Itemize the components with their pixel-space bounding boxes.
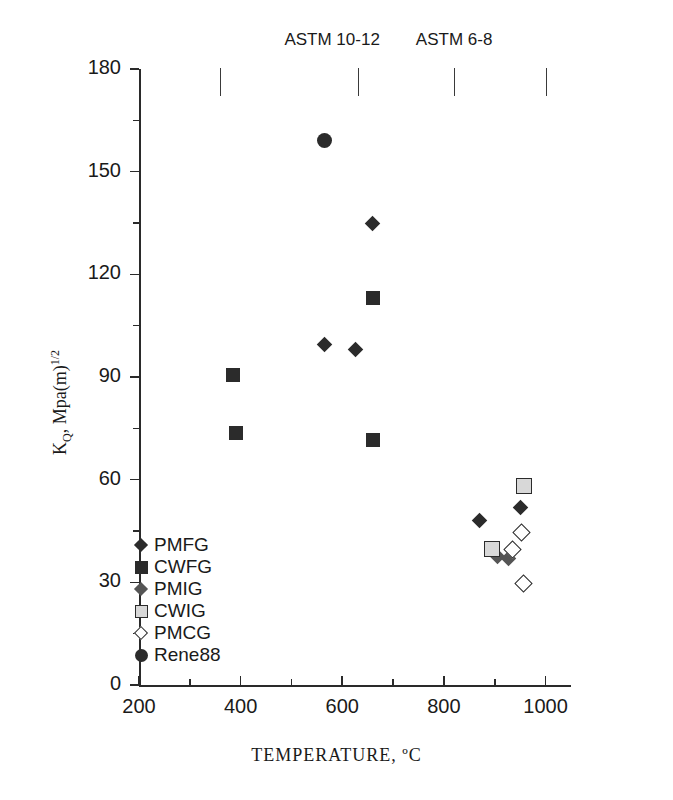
y-axis-title-mid: , Mpa(m) bbox=[50, 365, 70, 433]
astm-range-tick bbox=[546, 68, 547, 96]
legend-label: Rene88 bbox=[154, 644, 221, 666]
y-axis-title-main: K bbox=[50, 442, 70, 455]
y-axis-title-sup: 1/2 bbox=[48, 350, 62, 365]
legend-marker-shape bbox=[135, 649, 148, 662]
x-axis-line bbox=[139, 685, 571, 687]
x-tick-label: 400 bbox=[196, 695, 286, 718]
x-tick-minor bbox=[189, 679, 191, 685]
astm-range-tick bbox=[358, 68, 359, 96]
y-axis-title-sub: Q bbox=[60, 433, 74, 442]
y-tick-label: 60 bbox=[51, 467, 121, 490]
legend-item: CWFG bbox=[130, 556, 221, 578]
astm-range-tick bbox=[454, 68, 455, 96]
legend-marker-diamond-filled-icon bbox=[130, 534, 152, 556]
x-tick-label: 800 bbox=[399, 695, 489, 718]
x-tick-major bbox=[545, 676, 547, 685]
x-tick-minor bbox=[392, 679, 394, 685]
y-tick-minor bbox=[133, 530, 139, 532]
x-tick-major bbox=[138, 676, 140, 685]
y-tick-minor bbox=[133, 428, 139, 430]
data-point-pmfg bbox=[472, 513, 488, 529]
scatter-chart: 0306090120150180 2004006008001000 KQ, Mp… bbox=[0, 0, 673, 800]
data-point-cwfg bbox=[226, 368, 240, 382]
legend-marker-shape bbox=[135, 605, 148, 618]
x-tick-minor bbox=[291, 679, 293, 685]
y-tick-label: 0 bbox=[51, 672, 121, 695]
y-tick-minor bbox=[133, 120, 139, 122]
y-axis-title: KQ, Mpa(m)1/2 bbox=[48, 350, 75, 455]
x-tick-label: 600 bbox=[297, 695, 387, 718]
y-tick-major bbox=[130, 376, 139, 378]
legend-marker-square-light-icon bbox=[130, 600, 152, 622]
legend-item: Rene88 bbox=[130, 644, 221, 666]
data-point-pmcg bbox=[512, 523, 530, 541]
legend-marker-diamond-gray-icon bbox=[130, 578, 152, 600]
y-tick-label: 150 bbox=[51, 159, 121, 182]
x-tick-major bbox=[341, 676, 343, 685]
legend-label: PMCG bbox=[154, 622, 211, 644]
x-axis-title: TEMPERATURE, ºC bbox=[0, 745, 673, 766]
data-point-cwig bbox=[484, 541, 500, 557]
data-point-rene88 bbox=[317, 133, 332, 148]
legend-marker-square-filled-icon bbox=[130, 556, 152, 578]
data-point-pmfg bbox=[365, 215, 381, 231]
data-point-cwfg bbox=[229, 426, 243, 440]
legend-marker-shape bbox=[134, 582, 148, 596]
data-point-pmcg bbox=[515, 574, 533, 592]
y-tick-label: 180 bbox=[51, 56, 121, 79]
legend-marker-shape bbox=[134, 538, 148, 552]
y-tick-label: 30 bbox=[51, 569, 121, 592]
astm-range-label: ASTM 6-8 bbox=[374, 30, 534, 50]
x-tick-label: 1000 bbox=[501, 695, 591, 718]
x-tick-major bbox=[240, 676, 242, 685]
legend-item: PMCG bbox=[130, 622, 221, 644]
y-tick-label: 120 bbox=[51, 261, 121, 284]
data-point-cwfg bbox=[366, 291, 380, 305]
x-tick-minor bbox=[494, 679, 496, 685]
legend-label: CWFG bbox=[154, 556, 212, 578]
y-tick-major bbox=[130, 171, 139, 173]
y-tick-major bbox=[130, 274, 139, 276]
chart-legend: PMFGCWFGPMIGCWIGPMCGRene88 bbox=[130, 534, 221, 666]
legend-marker-diamond-open-icon bbox=[130, 622, 152, 644]
y-tick-major bbox=[130, 479, 139, 481]
data-point-cwig bbox=[516, 478, 532, 494]
legend-label: PMFG bbox=[154, 534, 209, 556]
legend-marker-shape bbox=[135, 561, 148, 574]
y-tick-minor bbox=[133, 222, 139, 224]
data-point-pmfg bbox=[317, 337, 333, 353]
astm-range-tick bbox=[220, 68, 221, 96]
x-tick-major bbox=[443, 676, 445, 685]
legend-marker-shape bbox=[134, 626, 148, 640]
y-tick-minor bbox=[133, 325, 139, 327]
legend-item: PMFG bbox=[130, 534, 221, 556]
data-point-cwfg bbox=[366, 433, 380, 447]
data-point-pmfg bbox=[512, 499, 528, 515]
legend-item: CWIG bbox=[130, 600, 221, 622]
x-tick-label: 200 bbox=[94, 695, 184, 718]
data-point-pmfg bbox=[347, 342, 363, 358]
legend-label: CWIG bbox=[154, 600, 206, 622]
legend-item: PMIG bbox=[130, 578, 221, 600]
y-tick-major bbox=[130, 68, 139, 70]
legend-marker-circle-filled-icon bbox=[130, 644, 152, 666]
legend-label: PMIG bbox=[154, 578, 203, 600]
